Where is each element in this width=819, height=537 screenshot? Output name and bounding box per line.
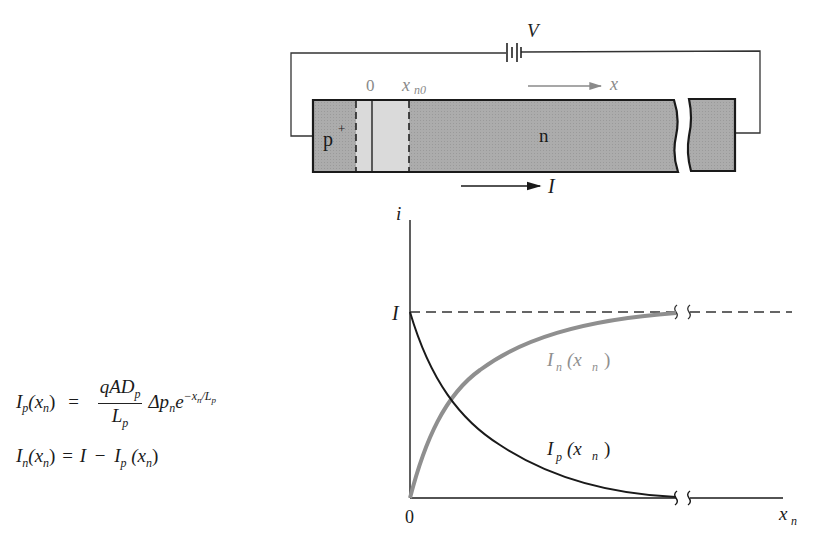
svg-text:n: n — [592, 360, 598, 374]
eq2-rhs-sub: p — [121, 456, 127, 470]
eq2-minus: − — [95, 445, 106, 466]
curve-In — [410, 313, 676, 498]
eq1-numerator-sub: p — [134, 387, 140, 401]
x-direction-label: x — [609, 74, 618, 94]
depletion-region — [356, 101, 409, 171]
eq1-exp-base: e — [175, 391, 183, 412]
eq1-delta-p: Δp — [148, 391, 169, 412]
battery-voltage-label: V — [527, 20, 541, 41]
eq2-rhs-arg: (x — [131, 445, 146, 466]
x-axis-sub: n — [791, 514, 797, 528]
equation-Ip: Ip(xn) = qADp Lp Δpne−xn/Lp — [16, 376, 216, 431]
eq1-exponent-tail-sub: p — [212, 396, 217, 406]
bar-end-piece — [688, 99, 735, 171]
eq2-equals: = — [62, 445, 73, 466]
eq1-denominator-sub: p — [122, 416, 128, 430]
eq1-arg: (x — [28, 391, 43, 412]
current-label: I — [547, 175, 556, 197]
Ip-curve-label: I p (x n ) — [546, 438, 610, 464]
svg-text:n: n — [592, 449, 598, 463]
origin-marker-label: 0 — [366, 76, 375, 95]
In-curve-label: I n (x n ) — [546, 349, 610, 374]
I-level-label: I — [391, 302, 400, 324]
eq2-total-current: I — [80, 445, 86, 466]
eq1-equals: = — [68, 391, 79, 412]
eq1-exponent: −x — [184, 389, 197, 403]
battery-icon — [507, 43, 521, 62]
eq1-exponent-tail: /L — [202, 389, 212, 403]
y-axis-label: i — [396, 203, 401, 224]
svg-text:(x: (x — [567, 438, 582, 460]
svg-text:): ) — [604, 349, 610, 371]
I-reference-line — [410, 305, 792, 319]
xn0-sub: n0 — [414, 83, 426, 97]
xn0-label: x — [401, 75, 410, 95]
n-region-label: n — [539, 125, 549, 146]
p-region-sup: + — [338, 121, 345, 136]
axis-break-icon — [688, 491, 691, 505]
svg-text:I: I — [546, 438, 555, 459]
semiconductor-bar — [313, 99, 735, 172]
eq1-denominator: L — [112, 405, 123, 426]
svg-text:p: p — [555, 450, 562, 464]
p-region-label: p — [323, 128, 333, 151]
svg-text:(x: (x — [567, 349, 582, 371]
eq1-numerator: qAD — [100, 376, 135, 397]
svg-text:I: I — [546, 349, 555, 370]
eq1-close: ) — [49, 391, 55, 412]
x-axis-label: x — [778, 503, 788, 524]
svg-text:): ) — [604, 438, 610, 460]
graph-origin-label: 0 — [405, 507, 414, 527]
svg-text:n: n — [556, 360, 562, 374]
eq2-arg: (x — [28, 445, 43, 466]
eq2-rhs-close: ) — [152, 445, 158, 466]
equation-In: In(xn) = I − Ip (xn) — [16, 445, 158, 471]
eq2-close: ) — [49, 445, 55, 466]
eq1-fraction: qADp Lp — [98, 376, 143, 431]
